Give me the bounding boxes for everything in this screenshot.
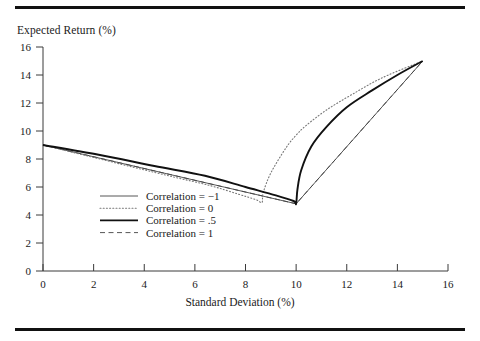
- x-tick-label: 2: [91, 278, 97, 290]
- y-tick-label: 16: [20, 41, 32, 53]
- legend-label-zero: Correlation = 0: [146, 202, 214, 214]
- y-tick-label: 10: [20, 125, 32, 137]
- y-tick-label: 6: [26, 181, 32, 193]
- y-tick-label: 12: [20, 97, 31, 109]
- y-tick-label: 2: [26, 237, 32, 249]
- chart-svg: 0246810121416 0246810121416 Correlation …: [0, 0, 480, 341]
- legend-label-one: Correlation = 1: [146, 227, 213, 239]
- x-tick-label: 4: [142, 278, 148, 290]
- y-axis-ticks: 0246810121416: [20, 41, 43, 277]
- curve-correlation-half: [43, 61, 423, 204]
- legend-label-half: Correlation = .5: [146, 214, 217, 226]
- x-tick-label: 0: [40, 278, 46, 290]
- legend: Correlation = −1Correlation = 0Correlati…: [100, 190, 220, 239]
- curve-correlation-0: [43, 61, 423, 203]
- x-tick-label: 10: [291, 278, 303, 290]
- y-tick-label: 8: [26, 153, 32, 165]
- x-tick-label: 8: [243, 278, 249, 290]
- x-tick-label: 6: [192, 278, 198, 290]
- x-tick-label: 14: [392, 278, 404, 290]
- x-tick-label: 16: [443, 278, 455, 290]
- x-tick-label: 12: [341, 278, 352, 290]
- data-curves: [43, 61, 423, 204]
- y-tick-label: 4: [26, 209, 32, 221]
- x-axis-ticks: 0246810121416: [40, 264, 454, 290]
- legend-label-neg1: Correlation = −1: [146, 190, 220, 202]
- y-tick-label: 14: [20, 69, 32, 81]
- efficient-frontier-chart: 0246810121416 0246810121416 Correlation …: [0, 0, 480, 341]
- y-tick-label: 0: [26, 265, 32, 277]
